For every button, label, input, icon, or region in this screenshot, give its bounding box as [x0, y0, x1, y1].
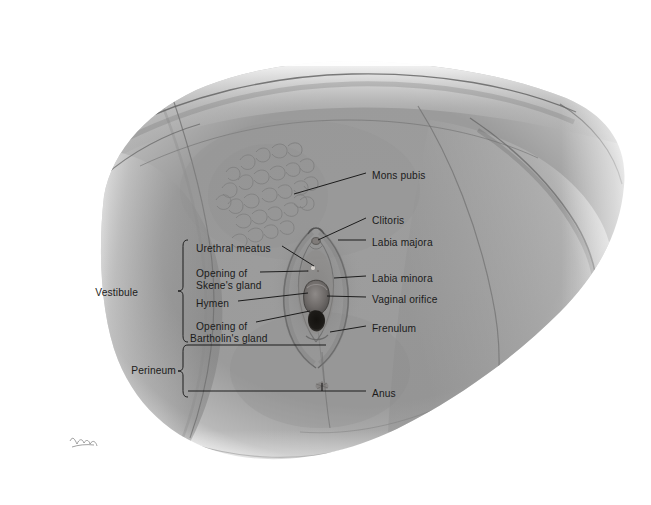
illustration-canvas: Mons pubis Clitoris Labia majora Labia m… [0, 0, 651, 505]
anatomical-figure: Mons pubis Clitoris Labia majora Labia m… [0, 0, 651, 505]
urethral-meatus [310, 265, 315, 270]
vaginal-orifice [304, 280, 330, 315]
skene-gland-opening-right [317, 270, 319, 272]
fade-top [0, 0, 651, 66]
label-labia-minora: Labia minora [372, 273, 433, 284]
label-skene-gland-line2: Skene's gland [196, 280, 262, 291]
clitoris-glans [312, 238, 320, 245]
label-skene-gland-line1: Opening of [196, 268, 247, 279]
fade-right [561, 0, 651, 505]
label-mons-pubis: Mons pubis [372, 170, 426, 181]
fade-left [0, 0, 110, 505]
label-labia-majora: Labia majora [372, 237, 433, 248]
label-hymen: Hymen [196, 298, 229, 309]
posterior-recess-shadow [308, 310, 325, 331]
label-clitoris: Clitoris [372, 215, 404, 226]
bottom-caption [0, 494, 651, 505]
label-vestibule: Vestibule [95, 287, 138, 298]
label-vaginal-orifice: Vaginal orifice [372, 294, 438, 305]
label-perineum: Perineum [131, 365, 176, 376]
label-bartholin-gland-line1: Opening of [196, 321, 247, 332]
label-anus: Anus [372, 388, 396, 399]
label-bartholin-gland-line2: Bartholin's gland [190, 333, 268, 344]
label-frenulum: Frenulum [372, 323, 416, 334]
label-urethral-meatus: Urethral meatus [196, 243, 271, 254]
